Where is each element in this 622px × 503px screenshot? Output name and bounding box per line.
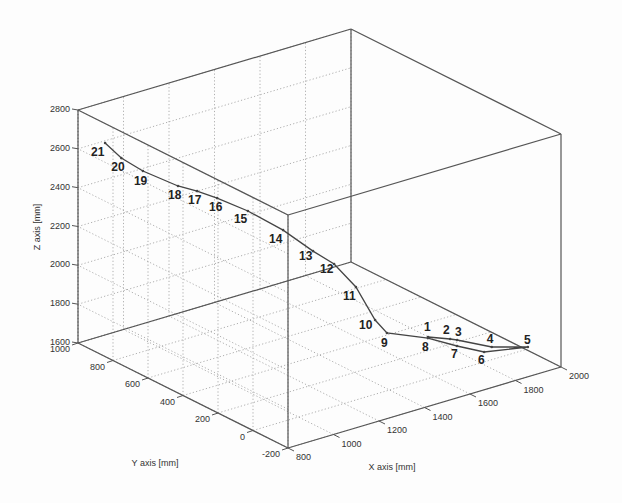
x-tick-label: 2000 bbox=[569, 371, 589, 381]
y-tick bbox=[212, 413, 218, 415]
data-point-label: 15 bbox=[234, 212, 248, 226]
z-axis-label: Z axis [mm] bbox=[32, 204, 42, 251]
data-point-marker bbox=[456, 339, 459, 342]
y-tick-label: 0 bbox=[240, 432, 245, 442]
x-tick-label: 1200 bbox=[387, 425, 407, 435]
data-point-label: 2 bbox=[443, 323, 450, 337]
data-point-label: 20 bbox=[111, 160, 125, 174]
data-point-label: 3 bbox=[455, 325, 462, 339]
x-tick bbox=[379, 421, 385, 424]
data-point-label: 16 bbox=[209, 200, 223, 214]
data-point-marker bbox=[427, 337, 430, 340]
data-point-marker bbox=[282, 229, 285, 232]
data-point-label: 7 bbox=[451, 347, 458, 361]
y-axis-label: Y axis [mm] bbox=[132, 458, 179, 468]
data-point-label: 14 bbox=[269, 232, 283, 246]
box-edge bbox=[78, 110, 288, 215]
grid-line bbox=[169, 316, 379, 421]
data-point-marker bbox=[104, 142, 107, 145]
grid-line bbox=[183, 315, 456, 396]
z-tick bbox=[72, 148, 78, 149]
data-point-marker bbox=[142, 170, 145, 173]
chart-figure: 800100012001400160018002000-200020040060… bbox=[0, 0, 622, 503]
data-point-label: 21 bbox=[91, 145, 105, 159]
x-tick-label: 800 bbox=[296, 452, 311, 462]
x-tick bbox=[288, 448, 294, 451]
data-point-label: 11 bbox=[343, 289, 356, 303]
z-tick-label: 2400 bbox=[50, 182, 70, 192]
3d-line-plot: 800100012001400160018002000-200020040060… bbox=[0, 0, 622, 503]
x-tick bbox=[334, 435, 340, 438]
data-point-marker bbox=[196, 190, 199, 193]
y-tick-label: -200 bbox=[262, 449, 280, 459]
data-point-marker bbox=[216, 197, 219, 200]
z-tick bbox=[72, 342, 78, 343]
x-tick-label: 1000 bbox=[342, 439, 362, 449]
z-tick-label: 2000 bbox=[50, 259, 70, 269]
data-point-label: 12 bbox=[320, 262, 334, 276]
z-tick-label: 2200 bbox=[50, 221, 70, 231]
z-tick bbox=[72, 187, 78, 188]
x-tick-label: 1400 bbox=[433, 412, 453, 422]
x-tick bbox=[516, 381, 522, 384]
data-point-label: 19 bbox=[134, 174, 148, 188]
x-axis-label: X axis [mm] bbox=[368, 462, 415, 472]
data-point-marker bbox=[491, 346, 494, 349]
data-point-label: 1 bbox=[424, 320, 431, 334]
data-point-marker bbox=[386, 332, 389, 335]
z-tick bbox=[72, 226, 78, 227]
y-tick bbox=[177, 396, 183, 398]
z-tick-label: 2600 bbox=[50, 143, 70, 153]
grid-line bbox=[215, 303, 425, 408]
data-point-marker bbox=[374, 319, 377, 322]
y-tick-label: 400 bbox=[160, 397, 175, 407]
y-tick bbox=[107, 361, 113, 363]
x-tick bbox=[425, 408, 431, 411]
z-tick-label: 1800 bbox=[50, 298, 70, 308]
x-tick-label: 1800 bbox=[524, 385, 544, 395]
z-tick-label: 1600 bbox=[50, 337, 70, 347]
trajectory-line bbox=[105, 143, 528, 352]
y-tick bbox=[282, 448, 288, 450]
data-point-label: 9 bbox=[381, 336, 388, 350]
data-point-label: 8 bbox=[422, 340, 429, 354]
data-point-label: 4 bbox=[487, 332, 494, 346]
data-point-label: 17 bbox=[188, 193, 202, 207]
data-point-label: 5 bbox=[524, 333, 531, 347]
x-tick bbox=[470, 394, 476, 397]
y-tick-label: 600 bbox=[125, 379, 140, 389]
box-edge bbox=[351, 29, 561, 134]
data-point-label: 13 bbox=[299, 249, 313, 263]
y-tick bbox=[142, 378, 148, 380]
grid-line bbox=[78, 188, 288, 293]
z-tick bbox=[72, 264, 78, 265]
data-point-label: 6 bbox=[478, 353, 485, 367]
x-tick bbox=[561, 367, 567, 370]
z-tick-label: 2800 bbox=[50, 104, 70, 114]
box-edge bbox=[288, 134, 561, 215]
z-tick bbox=[72, 109, 78, 110]
data-point-label: 10 bbox=[359, 318, 373, 332]
y-tick-label: 800 bbox=[90, 362, 105, 372]
z-tick bbox=[72, 303, 78, 304]
x-tick-label: 1600 bbox=[478, 398, 498, 408]
data-point-marker bbox=[177, 185, 180, 188]
y-tick-label: 200 bbox=[195, 414, 210, 424]
y-tick bbox=[247, 431, 253, 433]
data-point-marker bbox=[355, 286, 358, 289]
data-point-marker bbox=[120, 157, 123, 160]
data-point-label: 18 bbox=[168, 188, 182, 202]
data-point-marker bbox=[449, 338, 452, 341]
